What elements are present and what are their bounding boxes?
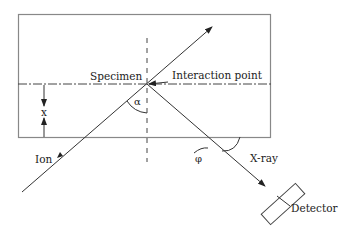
label-depth-x: x bbox=[41, 106, 47, 118]
ion-path bbox=[22, 27, 212, 192]
xray-path bbox=[147, 84, 265, 186]
label-alpha: α bbox=[134, 96, 141, 107]
label-detector: Detector bbox=[291, 202, 338, 214]
phi-arc bbox=[222, 137, 240, 151]
label-ion: Ion bbox=[35, 153, 52, 165]
diagram-canvas: Specimen Interaction point x α Ion φ X-r… bbox=[0, 0, 344, 227]
label-specimen: Specimen bbox=[90, 70, 143, 82]
label-xray: X-ray bbox=[250, 152, 278, 164]
label-phi: φ bbox=[195, 153, 202, 164]
label-interaction-point: Interaction point bbox=[172, 69, 263, 81]
